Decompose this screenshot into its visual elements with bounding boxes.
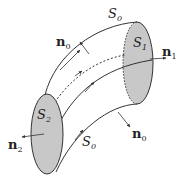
label-n2: n2 [8, 137, 23, 154]
surface-s2 [31, 94, 63, 174]
label-n0-bottom: n0 [132, 126, 147, 143]
stream-tube-diagram: S0 S1 S2 S0 n0 n1 n0 n2 [0, 0, 184, 185]
tube-bottom-edge [56, 104, 137, 172]
streamline-dashed [55, 55, 125, 102]
normal-n0-bottom [118, 112, 130, 127]
label-n1: n1 [162, 44, 177, 61]
label-s0-bottom: S0 [82, 134, 96, 151]
normal-n0-top [80, 42, 89, 54]
label-n0-top: n0 [56, 34, 71, 51]
label-s0-top: S0 [108, 6, 122, 23]
